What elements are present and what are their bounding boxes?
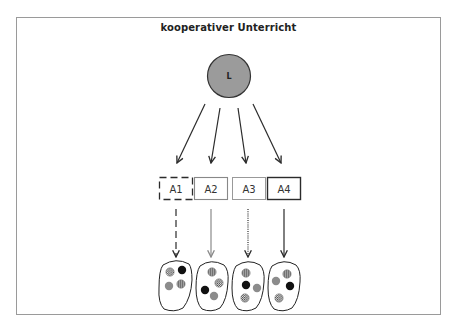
task-a3: A3 [233,178,266,200]
group-a4 [268,262,300,311]
member-striped [283,270,291,278]
member-striped [208,268,216,276]
task-a2-label: A2 [204,184,217,195]
member-black [242,281,250,289]
member-gray [272,277,280,285]
teacher-node: L [208,55,251,98]
task-a4-label: A4 [277,184,290,195]
arrow-to-a3 [238,108,246,163]
task-to-group-arrows [176,209,284,257]
group-a3 [232,262,264,311]
member-black [178,266,186,274]
member-gray [210,292,218,300]
arrow-to-a1 [177,104,205,163]
member-striped [177,280,185,288]
member-black [286,282,294,290]
diagram-canvas: L A1 A2 A3 A4 [0,0,456,331]
teacher-to-task-arrows [177,104,281,163]
task-a1-label: A1 [169,184,182,195]
member-striped [242,269,250,277]
teacher-label: L [226,72,231,81]
task-a1: A1 [160,178,193,200]
member-black [201,286,209,294]
arrow-to-a4 [253,104,281,163]
member-gray [165,282,173,290]
group-a2 [196,262,228,311]
member-hatched [215,279,223,287]
task-a3-label: A3 [242,184,255,195]
arrow-to-a2 [211,108,220,163]
member-hatched [275,294,283,302]
member-hatched [241,294,249,302]
task-a4: A4 [268,178,301,200]
group-a1 [159,261,192,311]
task-a2: A2 [195,178,228,200]
member-hatched [166,268,174,276]
member-gray [253,284,261,292]
